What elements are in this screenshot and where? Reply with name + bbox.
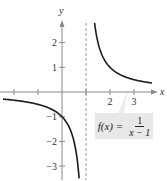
y-axis-arrow-icon (60, 20, 65, 27)
label-leader (118, 90, 128, 113)
x-tick-label: 2 (108, 96, 113, 107)
fraction: 1 x − 1 (129, 115, 150, 138)
y-tick-label: −2 (46, 136, 57, 147)
curve-right-branch (95, 23, 152, 83)
x-tick-label: 3 (132, 96, 137, 107)
x-axis-arrow-icon (151, 90, 158, 95)
axis-ticks (14, 43, 134, 167)
function-label: f(x) = 1 x − 1 (95, 113, 153, 139)
fraction-numerator: 1 (135, 115, 144, 127)
y-tick-label: 2 (52, 37, 57, 48)
y-tick-label: −3 (46, 161, 57, 172)
curve-left-branch (3, 99, 79, 178)
x-axis-label: x (159, 86, 165, 97)
fraction-denominator: x − 1 (129, 127, 150, 138)
y-tick-label: −1 (46, 111, 57, 122)
y-tick-label: 1 (52, 62, 57, 73)
function-graph: x y 2321−1−2−3 (0, 0, 167, 181)
y-axis-label: y (58, 5, 64, 16)
function-label-lhs: f(x) = (98, 120, 123, 132)
